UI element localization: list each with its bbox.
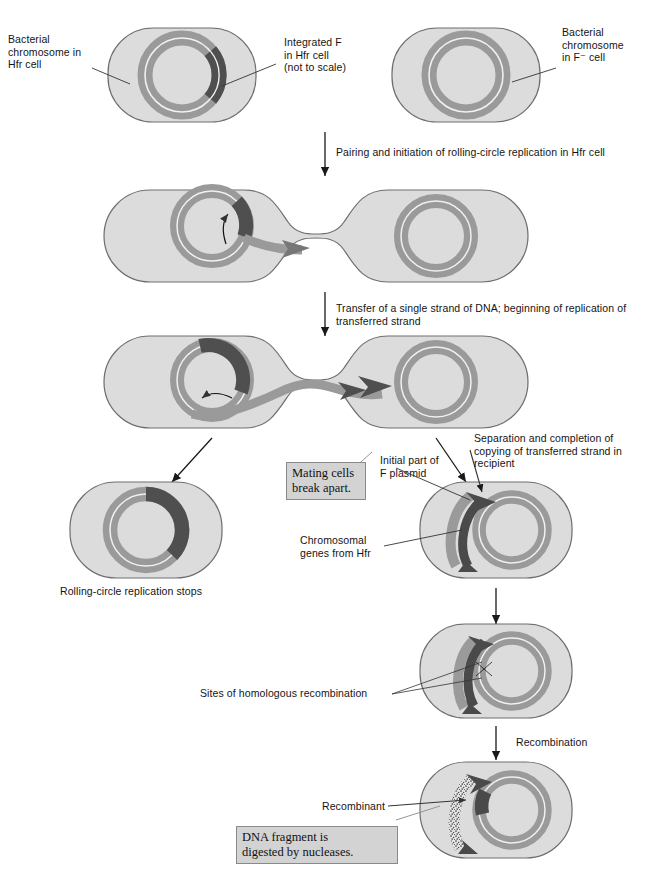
stage4-donor-cell [70,482,222,578]
label-step-pairing: Pairing and initiation of rolling-circle… [336,146,646,159]
stage1-fminus-cell [392,28,540,122]
label-chromosomal-genes-hfr: Chromosomal genes from Hfr [300,534,392,559]
callout-mating-cells-break-apart: Mating cells break apart. [286,462,366,500]
label-step-transfer: Transfer of a single strand of DNA; begi… [336,302,642,327]
label-step-separation: Separation and completion of copying of … [474,432,646,470]
stage2-conjugating-pair [104,190,528,282]
stage5-recombination-cell [420,624,572,718]
label-integrated-f: Integrated F in Hfr cell (not to scale) [284,36,388,74]
stage1-hfr-cell [108,28,256,122]
label-bacterial-chromosome-fminus: Bacterial chromosome in F⁻ cell [562,26,648,64]
branch-arrow-left [172,438,212,482]
label-rolling-circle-stops: Rolling-circle replication stops [60,585,250,598]
stage4-recipient-cell [420,482,572,578]
stage3-conjugating-pair [104,336,528,428]
stage6-recombinant-cell [420,762,572,858]
label-bacterial-chromosome-hfr: Bacterial chromosome in Hfr cell [8,33,100,71]
callout-dna-fragment-digested: DNA fragment is digested by nucleases. [236,826,398,864]
label-initial-part-f-plasmid: Initial part of F plasmid [380,454,470,479]
label-recombinant: Recombinant [322,800,398,813]
recombinant-segment [482,792,486,815]
label-step-recombination: Recombination [516,736,632,749]
figure-canvas: Bacterial chromosome in Hfr cell Integra… [0,0,649,877]
label-sites-homologous-recombination: Sites of homologous recombination [200,687,396,700]
